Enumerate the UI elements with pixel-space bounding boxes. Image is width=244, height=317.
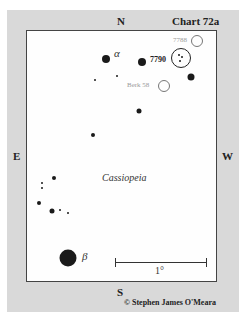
star [188,74,195,81]
scale-tick-left [115,258,116,267]
star [138,58,146,66]
star [116,75,118,77]
north-label: N [117,15,125,27]
scale-bar [115,262,207,263]
ngc7788-label: 7788 [173,36,187,44]
cluster-star [179,60,181,62]
alpha-label: α [114,47,120,59]
star [37,201,41,205]
star [41,187,43,189]
beta-label: β [82,250,87,262]
copyright: © Stephen James O'Meara [124,298,216,307]
cluster-star [178,54,180,56]
berk58-label: Berk 58 [127,81,149,89]
star [91,133,95,137]
scale-tick-right [206,258,207,267]
constellation-label: Cassiopeia [102,172,146,183]
star [137,109,142,114]
ngc7790-label: 7790 [150,55,166,64]
star [59,209,61,211]
west-label: W [222,150,233,162]
star [67,212,69,214]
scale-label: 1° [155,265,164,276]
ngc7790-cluster[interactable] [171,48,191,68]
star [94,79,96,81]
south-label: S [117,286,123,298]
ngc7788-cluster[interactable] [191,35,203,47]
star [50,209,55,214]
east-label: E [13,150,20,162]
cluster-star [181,56,183,58]
star [52,176,56,180]
star-beta [60,250,77,267]
star-chart [26,30,217,282]
star [41,182,43,184]
chart-title: Chart 72a [172,15,219,27]
star-alpha [102,55,110,63]
berk58-cluster[interactable] [158,80,170,92]
